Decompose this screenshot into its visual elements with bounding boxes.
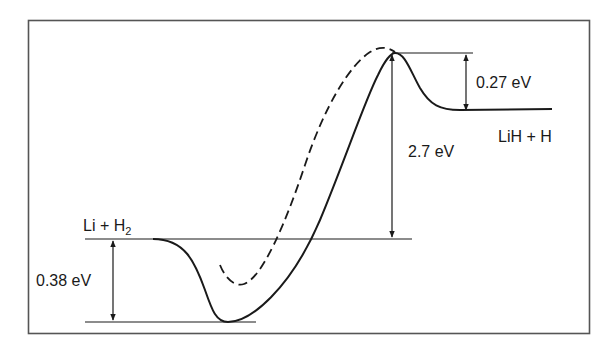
reverse-barrier-label: 0.27 eV	[476, 74, 531, 91]
products-label: LiH + H	[498, 128, 552, 145]
barrier-label: 2.7 eV	[408, 143, 455, 160]
well-depth-label: 0.38 eV	[36, 272, 91, 289]
energy-diagram: Li + H2 0.38 eV 2.7 eV 0.27 eV LiH + H	[0, 0, 614, 350]
dashed-energy-curve	[220, 48, 395, 285]
reactants-label: Li + H2	[83, 217, 131, 237]
solid-energy-curve	[153, 53, 552, 322]
